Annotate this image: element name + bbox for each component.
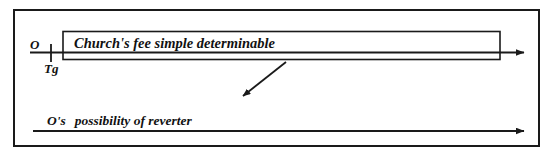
grantor-label: O (30, 38, 39, 51)
grant-time-label: Tg (44, 62, 58, 75)
diagram-vector-layer (0, 0, 554, 159)
diagram-canvas: O Tg Church's fee simple determinable O'… (0, 0, 554, 159)
pointer-arrow (243, 62, 286, 96)
future-interest-owner-label: O's (47, 113, 66, 128)
estate-box-label: Church's fee simple determinable (74, 36, 275, 51)
future-interest-name-label: possibility of reverter (75, 113, 192, 128)
future-interest-label: O'spossibility of reverter (47, 114, 192, 128)
